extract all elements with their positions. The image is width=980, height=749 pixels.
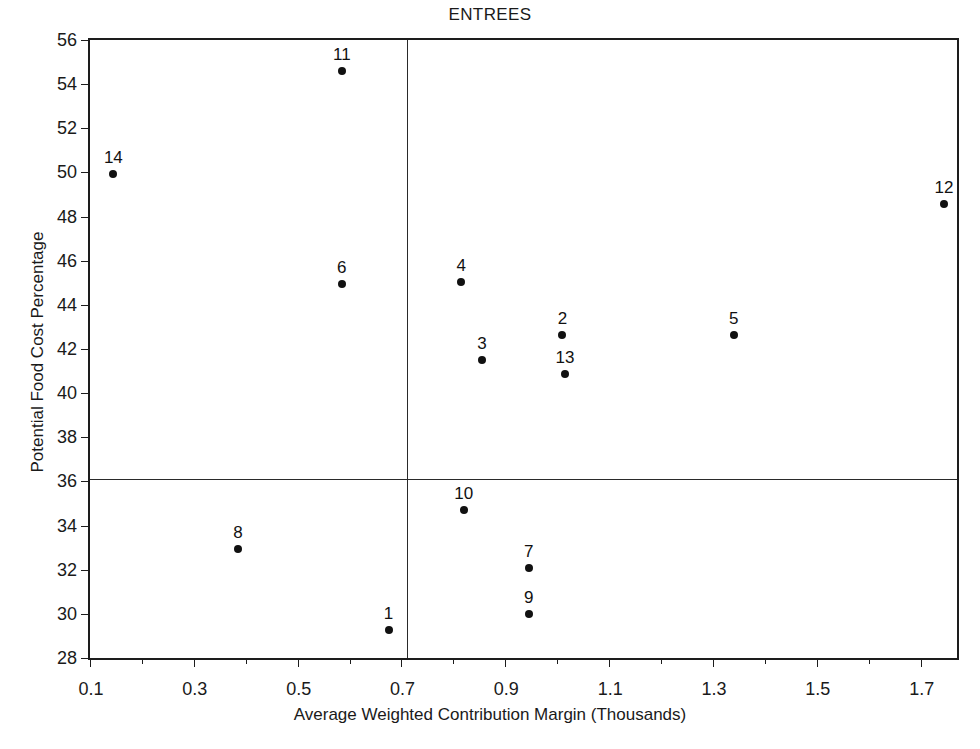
x-axis-tick-label: 1.7 bbox=[909, 679, 934, 700]
x-axis-tick bbox=[557, 658, 558, 664]
y-axis-tick: 52 bbox=[81, 128, 90, 129]
x-axis-tick-label: 0.5 bbox=[286, 679, 311, 700]
y-axis-tick: 56 bbox=[81, 40, 90, 41]
data-point[interactable] bbox=[338, 280, 346, 288]
x-axis-tick bbox=[453, 658, 454, 664]
y-axis-tick: 54 bbox=[81, 84, 90, 85]
data-point[interactable] bbox=[940, 200, 948, 208]
x-axis-label: Average Weighted Contribution Margin (Th… bbox=[0, 705, 980, 725]
y-axis-tick-label: 36 bbox=[57, 471, 77, 492]
x-axis-tick-label: 0.9 bbox=[494, 679, 519, 700]
y-axis-tick-label: 32 bbox=[57, 560, 77, 581]
x-axis-tick: 0.3 bbox=[194, 658, 195, 667]
horizontal-reference-line bbox=[90, 479, 957, 480]
y-axis-tick: 42 bbox=[81, 349, 90, 350]
y-axis-tick: 28 bbox=[81, 658, 90, 659]
data-point[interactable] bbox=[558, 331, 566, 339]
scatter-plot-figure: ENTREES Potential Food Cost Percentage 2… bbox=[0, 0, 980, 749]
data-point[interactable] bbox=[234, 545, 242, 553]
x-axis-tick bbox=[142, 658, 143, 664]
y-axis-tick-label: 46 bbox=[57, 251, 77, 272]
y-axis-tick: 38 bbox=[81, 437, 90, 438]
data-point[interactable] bbox=[525, 564, 533, 572]
y-axis-tick-label: 44 bbox=[57, 295, 77, 316]
x-axis-tick bbox=[661, 658, 662, 664]
x-axis-tick bbox=[246, 658, 247, 664]
data-point[interactable] bbox=[460, 506, 468, 514]
plot-area: 2830323436384042444648505254560.10.30.50… bbox=[88, 38, 959, 660]
y-axis-tick-label: 52 bbox=[57, 118, 77, 139]
y-axis-tick-label: 38 bbox=[57, 427, 77, 448]
x-axis-tick: 1.5 bbox=[817, 658, 818, 667]
y-axis-tick: 36 bbox=[81, 481, 90, 482]
y-axis-tick-label: 34 bbox=[57, 516, 77, 537]
x-axis-tick bbox=[765, 658, 766, 664]
y-axis-tick: 30 bbox=[81, 614, 90, 615]
y-axis-tick-label: 28 bbox=[57, 648, 77, 669]
x-axis-tick-label: 0.3 bbox=[182, 679, 207, 700]
data-point-label: 6 bbox=[337, 259, 346, 276]
x-axis-tick bbox=[869, 658, 870, 664]
y-axis-tick-label: 54 bbox=[57, 74, 77, 95]
y-axis-tick: 48 bbox=[81, 217, 90, 218]
x-axis-tick: 0.1 bbox=[90, 658, 91, 667]
x-axis-tick: 1.3 bbox=[713, 658, 714, 667]
y-axis-tick-label: 50 bbox=[57, 162, 77, 183]
chart-title: ENTREES bbox=[0, 5, 980, 25]
x-axis-tick: 1.1 bbox=[609, 658, 610, 667]
data-point[interactable] bbox=[730, 331, 738, 339]
y-axis-tick-label: 30 bbox=[57, 604, 77, 625]
data-point[interactable] bbox=[478, 356, 486, 364]
y-axis-tick: 40 bbox=[81, 393, 90, 394]
y-axis-tick-label: 48 bbox=[57, 207, 77, 228]
data-point-label: 11 bbox=[333, 46, 351, 63]
y-axis-tick: 32 bbox=[81, 570, 90, 571]
y-axis-tick-label: 42 bbox=[57, 339, 77, 360]
data-point-label: 5 bbox=[729, 310, 738, 327]
data-point-label: 1 bbox=[384, 605, 393, 622]
data-point-label: 4 bbox=[456, 257, 465, 274]
data-point-label: 13 bbox=[556, 349, 575, 366]
data-point-label: 3 bbox=[477, 335, 486, 352]
y-axis-tick-label: 40 bbox=[57, 383, 77, 404]
y-axis-tick: 44 bbox=[81, 305, 90, 306]
data-point[interactable] bbox=[385, 626, 393, 634]
data-point-label: 8 bbox=[233, 524, 242, 541]
x-axis-tick-label: 1.3 bbox=[701, 679, 726, 700]
x-axis-tick: 1.7 bbox=[921, 658, 922, 667]
x-axis-tick-label: 0.7 bbox=[390, 679, 415, 700]
data-point[interactable] bbox=[561, 370, 569, 378]
x-axis-tick: 0.9 bbox=[505, 658, 506, 667]
x-axis-tick-label: 1.5 bbox=[805, 679, 830, 700]
data-point-label: 7 bbox=[524, 543, 533, 560]
x-axis-tick: 0.7 bbox=[401, 658, 402, 667]
y-axis-tick: 46 bbox=[81, 261, 90, 262]
x-axis-tick: 0.5 bbox=[298, 658, 299, 667]
x-axis-tick-label: 1.1 bbox=[598, 679, 623, 700]
data-point[interactable] bbox=[109, 170, 117, 178]
data-point[interactable] bbox=[338, 67, 346, 75]
y-axis-tick: 34 bbox=[81, 526, 90, 527]
data-point-label: 10 bbox=[454, 485, 473, 502]
x-axis-tick bbox=[350, 658, 351, 664]
data-point-label: 2 bbox=[558, 310, 567, 327]
data-point[interactable] bbox=[525, 610, 533, 618]
vertical-reference-line bbox=[407, 40, 408, 658]
y-axis-tick-label: 56 bbox=[57, 30, 77, 51]
y-axis-tick: 50 bbox=[81, 172, 90, 173]
data-point[interactable] bbox=[457, 278, 465, 286]
x-axis-tick-label: 0.1 bbox=[78, 679, 103, 700]
data-point-label: 12 bbox=[935, 179, 954, 196]
data-point-label: 14 bbox=[104, 149, 123, 166]
data-point-label: 9 bbox=[524, 589, 533, 606]
y-axis-label: Potential Food Cost Percentage bbox=[28, 202, 48, 502]
